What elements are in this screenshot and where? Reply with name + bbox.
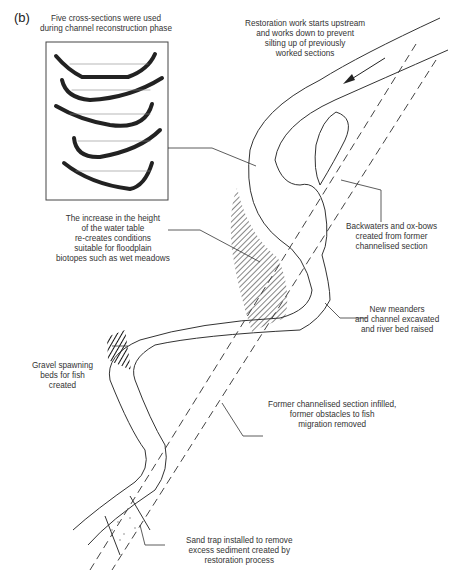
label-gravel: Gravel spawning beds for fish created [32, 361, 93, 391]
label-cross-sections: Five cross-sections were used during cha… [40, 14, 172, 34]
label-sand-trap: Sand trap installed to remove excess sed… [186, 536, 293, 566]
label-backwaters: Backwaters and ox-bows created from form… [346, 222, 437, 252]
cross-section-box [46, 42, 168, 200]
flow-direction-arrow [343, 58, 385, 84]
wet-meadow-area [231, 188, 288, 332]
label-new-meanders: New meanders and channel excavated and r… [355, 305, 439, 335]
label-restoration-work: Restoration work starts upstream and wor… [245, 19, 365, 59]
label-water-table: The increase in the height of the water … [56, 214, 170, 264]
label-former-channel: Former channelised section infilled, for… [268, 400, 396, 430]
sand-trap-sediment [111, 517, 136, 541]
gravel-bed-area [107, 330, 131, 370]
river-restoration-diagram [0, 0, 453, 576]
